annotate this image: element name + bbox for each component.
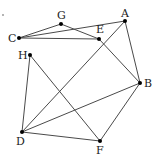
edge-e-b — [99, 39, 140, 83]
node-label-f: F — [96, 144, 104, 157]
edge-h-f — [30, 55, 100, 141]
edges-group — [19, 21, 140, 141]
graph-diagram: ABCDEFGH — [0, 0, 154, 160]
edge-a-b — [125, 21, 140, 83]
node-label-h: H — [18, 49, 28, 62]
node-h — [28, 53, 32, 57]
edge-c-g — [19, 24, 61, 38]
edge-a-d — [22, 21, 125, 132]
node-e — [97, 37, 101, 41]
edge-c-a — [19, 21, 125, 38]
node-b — [138, 81, 142, 85]
node-c — [17, 36, 21, 40]
node-label-d: D — [16, 135, 25, 148]
node-label-g: G — [57, 9, 66, 22]
edge-h-d — [22, 55, 30, 132]
edge-d-f — [22, 132, 100, 141]
edge-c-e — [19, 38, 99, 39]
node-label-a: A — [120, 7, 130, 20]
labels-group: ABCDEFGH — [8, 7, 152, 157]
stray-dot-mark — [2, 14, 4, 16]
node-d — [20, 130, 24, 134]
node-f — [98, 139, 102, 143]
nodes-group — [17, 19, 142, 143]
node-label-e: E — [96, 23, 104, 36]
edge-d-b — [22, 83, 140, 132]
node-label-b: B — [144, 77, 152, 90]
node-label-c: C — [8, 32, 16, 45]
node-g — [59, 22, 63, 26]
